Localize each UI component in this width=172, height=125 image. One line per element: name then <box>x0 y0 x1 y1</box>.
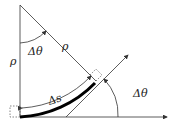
right-angle-arc <box>104 79 118 117</box>
dtheta-top-label: Δθ <box>27 45 43 58</box>
diagonal-radius <box>20 5 96 81</box>
curvature-diagram: ρ ρ Δθ Δθ Δs <box>0 0 172 125</box>
right-angle-box-left <box>10 106 20 117</box>
right-angle-box-top <box>90 69 102 81</box>
rho-diagonal-label: ρ <box>61 40 69 53</box>
tangent-arrow <box>66 55 128 117</box>
rho-left-label: ρ <box>9 55 17 68</box>
dtheta-right-label: Δθ <box>132 87 148 100</box>
top-angle-arc <box>20 31 46 43</box>
